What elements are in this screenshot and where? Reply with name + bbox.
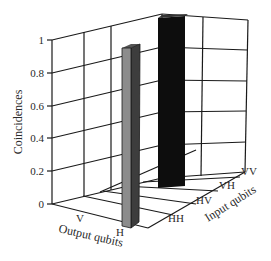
tick-0.6: 0.6 — [30, 100, 44, 112]
tick-0.2: 0.2 — [30, 165, 44, 177]
y-tick-HV: HV — [196, 194, 212, 206]
z-axis-label: Coincidences — [11, 89, 25, 154]
y-tick-VH: VH — [219, 179, 235, 191]
bar-H-VV — [158, 14, 188, 188]
x-tick-V: V — [76, 212, 84, 224]
bar-H-HH — [122, 44, 140, 228]
3d-bar-chart: 0 0.2 0.4 0.6 0.8 1 Coincidences V H Out… — [0, 0, 271, 261]
z-axis-ticks — [47, 40, 52, 204]
y-tick-VV: VV — [241, 165, 257, 177]
back-walls — [52, 14, 248, 228]
x-axis-label: Output qubits — [57, 221, 124, 249]
z-tick-labels: 0 0.2 0.4 0.6 0.8 1 — [30, 34, 44, 210]
tick-0: 0 — [39, 198, 45, 210]
tick-1: 1 — [39, 34, 45, 46]
tick-0.4: 0.4 — [30, 132, 44, 144]
y-tick-HH: HH — [168, 212, 184, 224]
tick-0.8: 0.8 — [30, 67, 44, 79]
